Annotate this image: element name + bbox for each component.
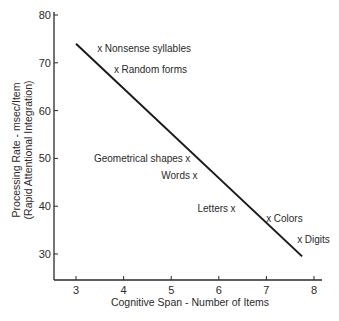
y-tick-label: 80 (39, 9, 51, 21)
point-label: Words (161, 170, 190, 181)
x-tick-label: 8 (311, 284, 317, 296)
regression-line (76, 44, 302, 257)
x-marker-icon: x (297, 234, 302, 245)
y-tick-label: 60 (39, 105, 51, 117)
scatter-chart: 304050607080345678 xNonsense syllablesxR… (0, 0, 339, 321)
x-tick-label: 5 (168, 284, 174, 296)
data-points: xNonsense syllablesxRandom formsxGeometr… (94, 43, 330, 245)
point-label: Colors (274, 213, 303, 224)
x-marker-icon: x (231, 203, 236, 214)
point-label: Random forms (121, 64, 187, 75)
x-tick-label: 3 (73, 284, 79, 296)
point-label: Letters (198, 203, 229, 214)
y-axis-title: Processing Rate - msec/Item (10, 82, 22, 217)
data-point: xNonsense syllables (97, 43, 191, 54)
x-tick-label: 7 (263, 284, 269, 296)
x-marker-icon: x (266, 213, 271, 224)
y-tick-label: 50 (39, 152, 51, 164)
x-marker-icon: x (185, 153, 190, 164)
data-point: xDigits (297, 234, 330, 245)
data-point: xRandom forms (114, 64, 187, 75)
x-tick-label: 4 (121, 284, 127, 296)
y-axis-subtitle: (Rapid Attentional Integration) (22, 81, 34, 220)
data-point: xColors (266, 213, 302, 224)
x-marker-icon: x (97, 43, 102, 54)
x-marker-icon: x (193, 170, 198, 181)
fit-line (76, 44, 302, 257)
x-axis-title: Cognitive Span - Number of Items (111, 296, 269, 308)
point-label: Nonsense syllables (105, 43, 191, 54)
x-marker-icon: x (114, 64, 119, 75)
point-label: Geometrical shapes (94, 153, 183, 164)
y-tick-label: 30 (39, 248, 51, 260)
y-tick-label: 70 (39, 57, 51, 69)
x-tick-label: 6 (216, 284, 222, 296)
data-point: xWords (161, 170, 197, 181)
data-point: xLetters (198, 203, 236, 214)
data-point: xGeometrical shapes (94, 153, 190, 164)
point-label: Digits (305, 234, 330, 245)
y-tick-label: 40 (39, 200, 51, 212)
